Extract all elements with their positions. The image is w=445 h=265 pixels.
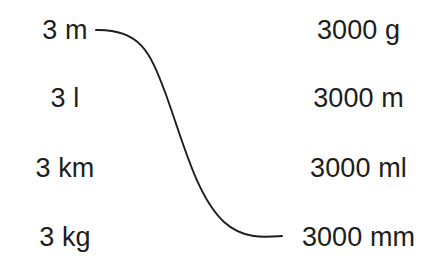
- right-term-1[interactable]: 3000 m: [313, 85, 404, 112]
- right-term-2[interactable]: 3000 ml: [310, 155, 407, 182]
- left-term-2[interactable]: 3 km: [36, 155, 95, 182]
- left-column: 3 m 3 l 3 km 3 kg: [0, 0, 150, 265]
- left-term-1[interactable]: 3 l: [51, 85, 80, 112]
- left-term-0[interactable]: 3 m: [42, 17, 87, 44]
- right-column: 3000 g 3000 m 3000 ml 3000 mm: [272, 0, 445, 265]
- right-term-3[interactable]: 3000 mm: [302, 224, 415, 251]
- left-term-3[interactable]: 3 kg: [39, 224, 90, 251]
- right-term-0[interactable]: 3000 g: [317, 17, 400, 44]
- exercise-canvas: 3 m 3 l 3 km 3 kg 3000 g 3000 m 3000 ml …: [0, 0, 445, 265]
